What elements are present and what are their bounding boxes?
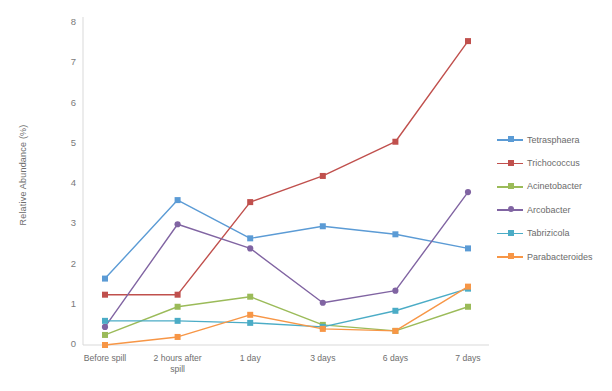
legend-item-arcobacter[interactable]: Arcobacter xyxy=(497,198,612,221)
legend-item-trichococcus[interactable]: Trichococcus xyxy=(497,151,612,174)
series-line xyxy=(105,41,468,295)
legend-marker xyxy=(508,253,514,259)
legend-swatch-icon xyxy=(497,180,523,192)
legend-item-label: Parabacteroides xyxy=(523,252,593,262)
data-point xyxy=(465,284,471,290)
chart-legend: TetrasphaeraTrichococcusAcinetobacterArc… xyxy=(497,128,612,268)
legend-swatch-icon xyxy=(497,157,523,169)
data-point xyxy=(320,223,326,229)
legend-item-label: Acinetobacter xyxy=(523,181,582,191)
data-point xyxy=(102,318,108,324)
data-point xyxy=(102,292,108,298)
series-trichococcus xyxy=(102,38,471,298)
x-tick-label: 6 days xyxy=(357,353,433,364)
data-point xyxy=(247,245,253,251)
series-acinetobacter xyxy=(102,294,471,338)
legend-marker xyxy=(508,136,514,142)
data-point xyxy=(175,318,181,324)
data-point xyxy=(392,231,398,237)
data-point xyxy=(175,292,181,298)
x-tick-label-line1: 6 days xyxy=(357,353,433,364)
data-point xyxy=(175,334,181,340)
legend-item-tabrizicola[interactable]: Tabrizicola xyxy=(497,222,612,245)
data-point xyxy=(465,189,471,195)
legend-item-label: Arcobacter xyxy=(523,205,571,215)
legend-marker xyxy=(508,183,514,189)
data-point xyxy=(465,245,471,251)
legend-item-tetrasphaera[interactable]: Tetrasphaera xyxy=(497,128,612,151)
legend-item-label: Tetrasphaera xyxy=(523,135,580,145)
legend-swatch-icon xyxy=(497,227,523,239)
data-point xyxy=(465,304,471,310)
data-point xyxy=(102,332,108,338)
series-tetrasphaera xyxy=(102,197,471,281)
data-point xyxy=(320,300,326,306)
legend-item-label: Tabrizicola xyxy=(523,228,570,238)
data-point xyxy=(392,139,398,145)
legend-swatch-icon xyxy=(497,134,523,146)
x-tick-label: 1 day xyxy=(212,353,288,364)
legend-item-label: Trichococcus xyxy=(523,158,580,168)
x-tick-label: 2 hours afterspill xyxy=(140,353,216,375)
legend-marker xyxy=(508,206,514,212)
data-point xyxy=(247,294,253,300)
data-point xyxy=(247,235,253,241)
series-tabrizicola xyxy=(102,286,471,330)
x-tick-label-line2: spill xyxy=(140,364,216,375)
data-point xyxy=(465,38,471,44)
x-tick-label-line1: 7 days xyxy=(430,353,506,364)
data-point xyxy=(392,308,398,314)
data-point xyxy=(392,288,398,294)
data-point xyxy=(247,199,253,205)
data-point xyxy=(175,197,181,203)
legend-marker xyxy=(508,160,514,166)
axis-lines xyxy=(83,17,489,345)
line-chart: Relative Abundance (%) 012345678 Before … xyxy=(0,0,612,391)
legend-item-parabacteroides[interactable]: Parabacteroides xyxy=(497,245,612,268)
data-point xyxy=(247,312,253,318)
series-line xyxy=(105,297,468,335)
series-line xyxy=(105,287,468,345)
data-point xyxy=(175,304,181,310)
data-point xyxy=(102,276,108,282)
legend-swatch-icon xyxy=(497,251,523,263)
data-point xyxy=(175,221,181,227)
x-tick-label-line1: Before spill xyxy=(67,353,143,364)
series-line xyxy=(105,192,468,327)
series-parabacteroides xyxy=(102,284,471,348)
data-point xyxy=(102,342,108,348)
data-point xyxy=(247,320,253,326)
x-tick-label: 3 days xyxy=(285,353,361,364)
x-tick-label: Before spill xyxy=(67,353,143,364)
legend-swatch-icon xyxy=(497,204,523,216)
legend-marker xyxy=(508,230,514,236)
x-tick-label-line1: 2 hours after xyxy=(140,353,216,364)
data-point xyxy=(320,326,326,332)
x-tick-label-line1: 3 days xyxy=(285,353,361,364)
data-point xyxy=(392,328,398,334)
data-point xyxy=(320,173,326,179)
legend-item-acinetobacter[interactable]: Acinetobacter xyxy=(497,175,612,198)
x-tick-label-line1: 1 day xyxy=(212,353,288,364)
x-tick-label: 7 days xyxy=(430,353,506,364)
series-arcobacter xyxy=(102,189,471,330)
data-point xyxy=(102,324,108,330)
